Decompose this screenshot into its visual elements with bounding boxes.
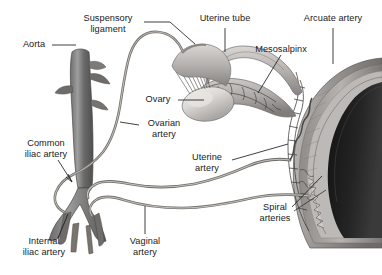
label-ovary: Ovary [138, 94, 178, 105]
label-internal-iliac-artery: Internal iliac artery [6, 236, 82, 257]
label-mesosalpinx: Mesosalpinx [246, 44, 316, 55]
label-vaginal-artery: Vaginal artery [120, 236, 170, 257]
anatomy-figure: Suspensory ligament Uterine tube Arcuate… [0, 0, 382, 275]
label-uterine-tube: Uterine tube [190, 13, 260, 24]
label-arcuate-artery: Arcuate artery [292, 13, 374, 24]
label-common-iliac-artery: Common iliac artery [8, 138, 84, 159]
label-spiral-arteries: Spiral arteries [250, 202, 300, 223]
label-aorta: Aorta [12, 39, 56, 50]
label-uterine-artery: Uterine artery [182, 152, 232, 173]
label-suspensory-ligament: Suspensory ligament [78, 13, 138, 34]
label-ovarian-artery: Ovarian artery [140, 118, 188, 139]
